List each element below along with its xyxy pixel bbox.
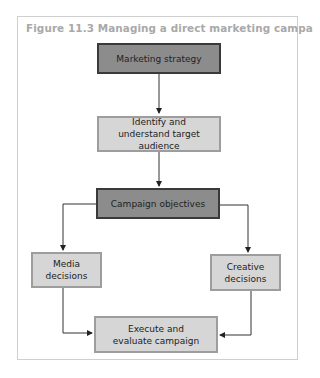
- node-label: Marketing strategy: [116, 53, 201, 65]
- node-label: Execute and evaluate campaign: [110, 323, 202, 347]
- node-execute-evaluate: Execute and evaluate campaign: [94, 316, 218, 353]
- node-label: Creative decisions: [222, 261, 269, 285]
- node-media-decisions: Media decisions: [31, 252, 102, 288]
- node-label: Identify and understand target audience: [105, 116, 213, 152]
- node-label: Campaign objectives: [111, 198, 205, 210]
- node-target-audience: Identify and understand target audience: [97, 116, 221, 152]
- node-label: Media decisions: [43, 258, 90, 282]
- node-campaign-objectives: Campaign objectives: [96, 188, 220, 219]
- node-creative-decisions: Creative decisions: [210, 254, 281, 291]
- node-marketing-strategy: Marketing strategy: [97, 43, 221, 74]
